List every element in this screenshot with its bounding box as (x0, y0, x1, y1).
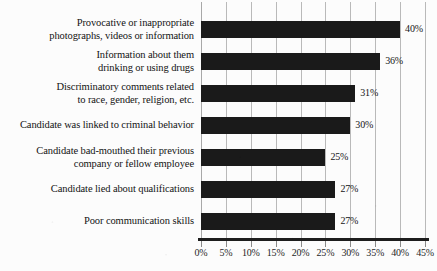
bar (201, 21, 400, 38)
x-axis-line (198, 238, 429, 241)
bar (201, 117, 350, 134)
bar (201, 53, 380, 70)
bar-value-label: 25% (330, 151, 348, 162)
bar-value-label: 30% (355, 119, 373, 130)
x-tick-label: 45% (405, 247, 437, 258)
bar-row: Candidate lied about qualifications27% (0, 174, 437, 206)
bar-value-label: 40% (405, 23, 423, 34)
bar-value-label: 27% (340, 215, 358, 226)
bar (201, 85, 355, 102)
bar-value-label: 27% (340, 183, 358, 194)
bar-row: Discriminatory comments relatedto race, … (0, 78, 437, 110)
category-label: Candidate bad-mouthed their previouscomp… (8, 145, 194, 170)
category-label: Discriminatory comments relatedto race, … (8, 81, 194, 106)
bar-row: Provocative or inappropriatephotographs,… (0, 14, 437, 46)
bar (201, 213, 335, 230)
bar-value-label: 31% (360, 87, 378, 98)
category-label: Candidate was linked to criminal behavio… (8, 119, 194, 132)
bar-chart: 0%5%10%15%20%25%30%35%40%45% Provocative… (0, 0, 437, 271)
bar-row: Poor communication skills27% (0, 206, 437, 238)
bar (201, 149, 325, 166)
category-label: Information about themdrinking or using … (8, 49, 194, 74)
category-label: Provocative or inappropriatephotographs,… (8, 17, 194, 42)
category-label: Poor communication skills (8, 215, 194, 228)
bar (201, 181, 335, 198)
bar-row: Candidate was linked to criminal behavio… (0, 110, 437, 142)
bar-row: Information about themdrinking or using … (0, 46, 437, 78)
category-label: Candidate lied about qualifications (8, 183, 194, 196)
bar-row: Candidate bad-mouthed their previouscomp… (0, 142, 437, 174)
bar-value-label: 36% (385, 55, 403, 66)
